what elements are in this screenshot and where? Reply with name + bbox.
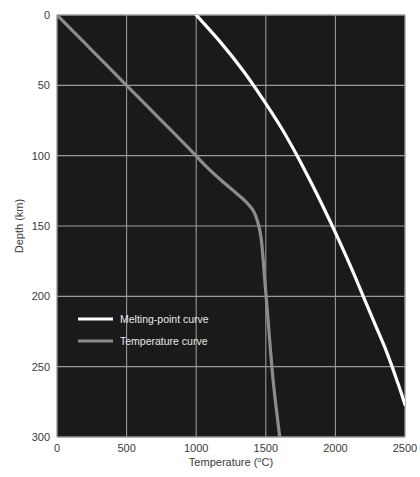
legend-label: Temperature curve: [120, 335, 208, 347]
chart-figure: 05001000150020002500 050100150200250300 …: [0, 0, 420, 477]
y-tick-label: 0: [44, 9, 50, 21]
y-tick-label: 200: [32, 290, 50, 302]
x-axis-title-tail: C): [262, 456, 274, 468]
y-tick-label: 100: [32, 150, 50, 162]
x-tick-label: 0: [54, 442, 60, 454]
legend-label: Melting-point curve: [120, 313, 209, 325]
x-tick-label: 2500: [393, 442, 417, 454]
y-axis-title: Depth (km): [13, 199, 25, 253]
x-axis-title-main: Temperature (: [189, 456, 258, 468]
y-tick-label: 150: [32, 220, 50, 232]
y-tick-label: 300: [32, 431, 50, 443]
x-tick-label: 1000: [184, 442, 208, 454]
x-tick-label: 1500: [254, 442, 278, 454]
y-tick-label: 250: [32, 361, 50, 373]
chart-svg: 05001000150020002500 050100150200250300 …: [0, 0, 420, 477]
y-tick-label: 50: [38, 79, 50, 91]
x-tick-label: 500: [117, 442, 135, 454]
x-tick-label: 2000: [323, 442, 347, 454]
